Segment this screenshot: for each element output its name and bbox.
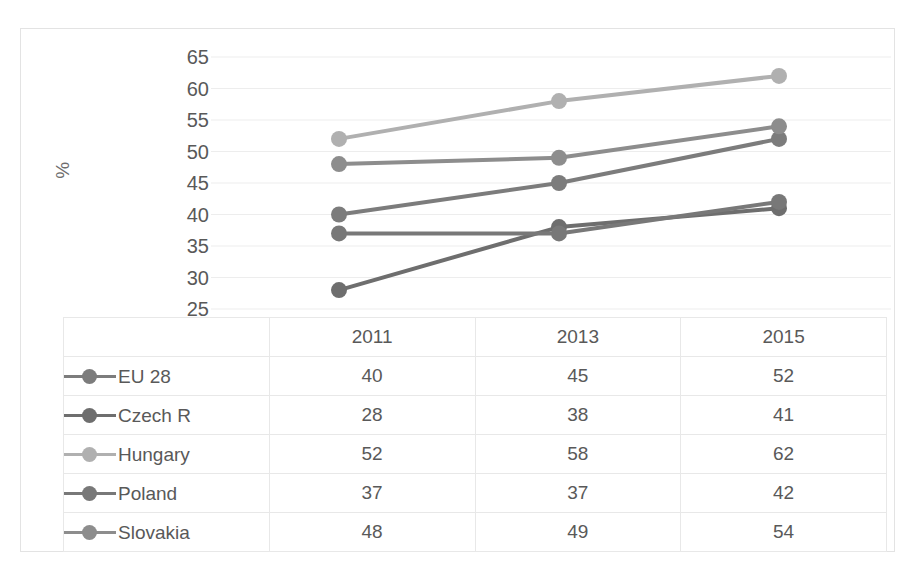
y-tick-label: 55 bbox=[161, 110, 209, 130]
data-point-marker bbox=[331, 282, 347, 298]
legend-series-label: Slovakia bbox=[118, 523, 190, 542]
y-tick-label: 35 bbox=[161, 236, 209, 256]
data-point-marker bbox=[771, 118, 787, 134]
data-point-marker bbox=[551, 175, 567, 191]
table-row: Czech R283841 bbox=[64, 396, 887, 435]
legend-entry: Hungary bbox=[64, 445, 269, 464]
legend-marker-icon bbox=[64, 484, 116, 502]
legend-entry: Poland bbox=[64, 484, 269, 503]
table-value-cell: 48 bbox=[269, 513, 475, 552]
table-row: EU 28404552 bbox=[64, 357, 887, 396]
data-point-marker bbox=[551, 150, 567, 166]
y-axis-tick-labels: 656055504540353025 bbox=[161, 29, 209, 317]
data-point-marker bbox=[331, 156, 347, 172]
table-header-row: 201120132015 bbox=[64, 318, 887, 357]
y-tick-label: 40 bbox=[161, 205, 209, 225]
table-value-cell: 52 bbox=[269, 435, 475, 474]
chart-container: % 656055504540353025 201120132015 EU 284… bbox=[20, 28, 895, 552]
data-table: 201120132015 EU 28404552Czech R283841Hun… bbox=[63, 317, 887, 552]
legend-cell: Slovakia bbox=[64, 513, 270, 552]
y-tick-label: 45 bbox=[161, 173, 209, 193]
legend-dot-icon bbox=[82, 486, 97, 501]
legend-series-label: Poland bbox=[118, 484, 177, 503]
table-value-cell: 52 bbox=[681, 357, 887, 396]
y-tick-label: 60 bbox=[161, 79, 209, 99]
plot-region: % 656055504540353025 bbox=[21, 29, 896, 317]
plot-canvas bbox=[211, 29, 891, 317]
legend-entry: EU 28 bbox=[64, 367, 269, 386]
table-value-cell: 38 bbox=[475, 396, 681, 435]
data-point-marker bbox=[771, 194, 787, 210]
legend-cell: Czech R bbox=[64, 396, 270, 435]
table-value-cell: 37 bbox=[475, 474, 681, 513]
legend-marker-icon bbox=[64, 406, 116, 424]
table-value-cell: 45 bbox=[475, 357, 681, 396]
data-table-body: EU 28404552Czech R283841Hungary525862Pol… bbox=[64, 357, 887, 552]
table-value-cell: 49 bbox=[475, 513, 681, 552]
line-chart-svg bbox=[211, 29, 891, 317]
table-value-cell: 62 bbox=[681, 435, 887, 474]
legend-entry: Slovakia bbox=[64, 523, 269, 542]
legend-series-label: Czech R bbox=[118, 406, 191, 425]
y-tick-label: 25 bbox=[161, 299, 209, 319]
table-row: Hungary525862 bbox=[64, 435, 887, 474]
table-value-cell: 58 bbox=[475, 435, 681, 474]
legend-dot-icon bbox=[82, 369, 97, 384]
legend-entry: Czech R bbox=[64, 406, 269, 425]
table-column-header: 2013 bbox=[475, 318, 681, 357]
legend-cell: Poland bbox=[64, 474, 270, 513]
legend-cell: EU 28 bbox=[64, 357, 270, 396]
legend-cell: Hungary bbox=[64, 435, 270, 474]
legend-dot-icon bbox=[82, 447, 97, 462]
data-table-head: 201120132015 bbox=[64, 318, 887, 357]
table-row: Slovakia484954 bbox=[64, 513, 887, 552]
data-table-wrapper: 201120132015 EU 28404552Czech R283841Hun… bbox=[63, 317, 887, 547]
legend-dot-icon bbox=[82, 408, 97, 423]
data-point-marker bbox=[551, 225, 567, 241]
table-value-cell: 41 bbox=[681, 396, 887, 435]
table-value-cell: 37 bbox=[269, 474, 475, 513]
table-column-header: 2015 bbox=[681, 318, 887, 357]
legend-dot-icon bbox=[82, 525, 97, 540]
table-value-cell: 54 bbox=[681, 513, 887, 552]
legend-series-label: EU 28 bbox=[118, 367, 171, 386]
data-point-marker bbox=[331, 207, 347, 223]
y-tick-label: 30 bbox=[161, 268, 209, 288]
legend-series-label: Hungary bbox=[118, 445, 190, 464]
y-tick-label: 65 bbox=[161, 47, 209, 67]
table-corner-cell bbox=[64, 318, 270, 357]
data-point-marker bbox=[331, 225, 347, 241]
data-point-marker bbox=[771, 68, 787, 84]
data-point-marker bbox=[551, 93, 567, 109]
y-tick-label: 50 bbox=[161, 142, 209, 162]
table-value-cell: 40 bbox=[269, 357, 475, 396]
legend-marker-icon bbox=[64, 367, 116, 385]
legend-marker-icon bbox=[64, 523, 116, 541]
table-row: Poland373742 bbox=[64, 474, 887, 513]
legend-marker-icon bbox=[64, 445, 116, 463]
data-point-marker bbox=[331, 131, 347, 147]
table-column-header: 2011 bbox=[269, 318, 475, 357]
table-value-cell: 28 bbox=[269, 396, 475, 435]
table-value-cell: 42 bbox=[681, 474, 887, 513]
y-axis-title: % bbox=[52, 150, 74, 190]
